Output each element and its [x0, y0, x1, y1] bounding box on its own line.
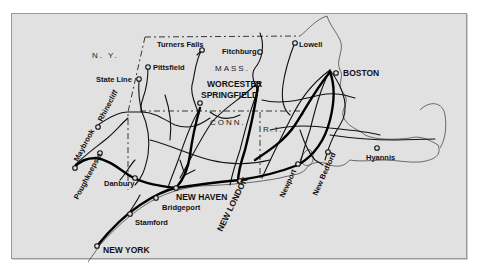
station-springfield[interactable]: [198, 101, 203, 106]
city-label-springfield: SPRINGFIELD: [201, 90, 258, 100]
station-boston[interactable]: [334, 71, 339, 76]
state-borders: [128, 36, 305, 190]
station-fitchburg[interactable]: [258, 50, 263, 55]
station-lowell[interactable]: [293, 41, 298, 46]
station-hyannis[interactable]: [375, 146, 380, 151]
city-label-new-haven: NEW HAVEN: [176, 192, 227, 202]
city-label-lowell: Lowell: [299, 40, 322, 49]
mass-north-border: [145, 36, 300, 37]
station-bridgeport[interactable]: [154, 196, 159, 201]
city-label-boston: BOSTON: [343, 68, 379, 78]
city-label-turners-falls: Turners Falls: [157, 40, 204, 49]
city-label-rhinecliff: Rhinecliff: [96, 88, 120, 123]
city-label-hyannis: Hyannis: [366, 153, 395, 162]
station-state-line[interactable]: [137, 77, 142, 82]
city-label-bridgeport: Bridgeport: [162, 203, 201, 212]
city-label-stamford: Stamford: [135, 218, 168, 227]
state-label-ny: N. Y.: [92, 51, 119, 60]
state-label-ri: R.I.: [263, 125, 283, 134]
station-maybrook[interactable]: [73, 166, 78, 171]
city-label-new-york: NEW YORK: [103, 245, 150, 255]
station-new-york[interactable]: [95, 244, 100, 249]
station-newport[interactable]: [296, 162, 301, 167]
city-label-worcester: WORCESTER: [207, 79, 262, 89]
state-label-conn: CONN.: [210, 118, 246, 127]
station-new-haven[interactable]: [174, 186, 179, 191]
city-label-state-line: State Line: [96, 75, 132, 84]
station-rhinecliff[interactable]: [96, 125, 101, 130]
city-label-danbury: Danbury: [104, 179, 135, 188]
state-label-mass: MASS.: [215, 64, 250, 73]
station-stamford[interactable]: [128, 212, 133, 217]
city-label-new-bedford: New Bedford: [311, 151, 338, 197]
station-pittsfield[interactable]: [146, 65, 151, 70]
rail-map: N. Y. MASS. CONN. R.I. Turners Falls Fit…: [0, 0, 480, 271]
city-label-pittsfield: Pittsfield: [153, 63, 185, 72]
city-label-fitchburg: Fitchburg: [222, 47, 257, 56]
